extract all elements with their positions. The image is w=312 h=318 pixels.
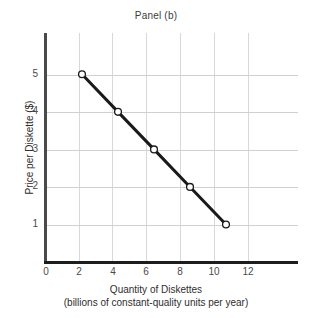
data-point-2-5 bbox=[79, 71, 86, 78]
data-point-4-4 bbox=[115, 108, 122, 115]
demand-curve-series bbox=[0, 0, 312, 318]
chart-figure: Panel (b) 0 2 4 6 8 10 12 1 2 3 4 5 Pric… bbox=[0, 0, 312, 318]
data-point-6-3 bbox=[151, 146, 158, 153]
data-point-8-2 bbox=[187, 184, 194, 191]
data-point-10-1 bbox=[223, 221, 230, 228]
